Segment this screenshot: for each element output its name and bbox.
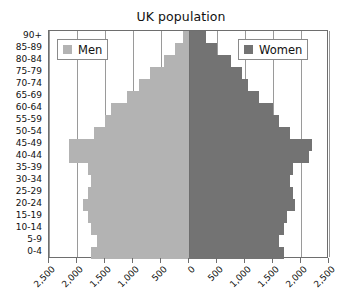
chart-title: UK population	[0, 9, 362, 24]
x-tick-mark	[160, 258, 161, 263]
legend-men: Men	[57, 39, 108, 60]
bar-men	[91, 223, 189, 235]
bar-row	[49, 199, 327, 211]
bar-men	[127, 91, 189, 103]
bar-row	[49, 103, 327, 115]
bar-row	[49, 187, 327, 199]
y-tick-label: 90+	[23, 31, 42, 40]
bar-women	[189, 151, 309, 163]
bar-women	[189, 67, 242, 79]
y-tick-label: 0-4	[27, 247, 42, 256]
y-tick-label: 65-69	[16, 91, 42, 100]
y-tick-label: 40-44	[16, 151, 42, 160]
bar-men	[164, 55, 189, 67]
bar-women	[189, 79, 248, 91]
bar-women	[189, 235, 279, 247]
y-tick-label: 70-74	[16, 79, 42, 88]
legend-women: Women	[238, 39, 308, 60]
bar-row	[49, 151, 327, 163]
bar-men	[88, 187, 189, 199]
y-tick-label: 15-19	[16, 211, 42, 220]
bar-women	[189, 211, 287, 223]
bar-men	[111, 103, 189, 115]
bar-women	[189, 199, 295, 211]
y-tick-label: 30-34	[16, 175, 42, 184]
gridline	[329, 31, 330, 257]
x-tick-mark	[76, 258, 77, 263]
y-axis-labels: 90+85-8980-8475-7970-7465-6960-6455-5950…	[0, 30, 45, 258]
bar-men	[88, 211, 189, 223]
x-tick-mark	[48, 258, 49, 263]
bar-women	[189, 91, 259, 103]
y-tick-label: 35-39	[16, 163, 42, 172]
x-tick-mark	[104, 258, 105, 263]
bar-men	[175, 43, 189, 55]
bar-women	[189, 223, 284, 235]
bar-women	[189, 103, 273, 115]
bar-women	[189, 187, 293, 199]
y-tick-label: 55-59	[16, 115, 42, 124]
x-tick-mark	[216, 258, 217, 263]
plot-area	[49, 31, 327, 257]
x-tick-mark	[300, 258, 301, 263]
bar-row	[49, 235, 327, 247]
y-tick-label: 50-54	[16, 127, 42, 136]
y-tick-label: 20-24	[16, 199, 42, 208]
bar-men	[83, 199, 189, 211]
x-tick-mark	[132, 258, 133, 263]
legend-label-men: Men	[78, 43, 102, 57]
legend-swatch-women-icon	[244, 45, 253, 54]
bar-men	[94, 127, 189, 139]
bar-row	[49, 115, 327, 127]
x-tick-mark	[328, 258, 329, 263]
x-tick-mark	[272, 258, 273, 263]
bar-row	[49, 127, 327, 139]
legend-label-women: Women	[259, 43, 302, 57]
bar-women	[189, 115, 279, 127]
bar-men	[69, 139, 189, 151]
bar-row	[49, 175, 327, 187]
legend-swatch-men-icon	[63, 45, 72, 54]
y-tick-label: 10-14	[16, 223, 42, 232]
bar-women	[189, 175, 290, 187]
y-tick-label: 75-79	[16, 67, 42, 76]
x-axis-labels: 2,5002,0001,5001,00050005001,0001,5002,0…	[0, 264, 362, 301]
bar-row	[49, 91, 327, 103]
bar-women	[189, 127, 290, 139]
bar-women	[189, 55, 231, 67]
bar-row	[49, 211, 327, 223]
bar-women	[189, 163, 293, 175]
y-tick-label: 5-9	[27, 235, 42, 244]
bar-row	[49, 79, 327, 91]
bar-men	[91, 175, 189, 187]
bar-men	[105, 115, 189, 127]
bar-men	[139, 79, 189, 91]
bar-row	[49, 223, 327, 235]
population-pyramid-chart: UK population 90+85-8980-8475-7970-7465-…	[0, 0, 362, 301]
zero-axis-line	[189, 31, 190, 257]
bar-row	[49, 67, 327, 79]
x-tick-mark	[188, 258, 189, 263]
bar-row	[49, 139, 327, 151]
y-tick-label: 25-29	[16, 187, 42, 196]
bar-men	[150, 67, 189, 79]
bar-men	[97, 235, 189, 247]
bar-row	[49, 163, 327, 175]
y-tick-label: 80-84	[16, 55, 42, 64]
y-tick-label: 60-64	[16, 103, 42, 112]
plot-frame	[48, 30, 328, 258]
y-tick-label: 45-49	[16, 139, 42, 148]
bar-women	[189, 31, 206, 43]
bar-women	[189, 139, 312, 151]
bar-men	[88, 163, 189, 175]
bar-women	[189, 43, 217, 55]
x-tick-mark	[244, 258, 245, 263]
bar-men	[69, 151, 189, 163]
y-tick-label: 85-89	[16, 43, 42, 52]
